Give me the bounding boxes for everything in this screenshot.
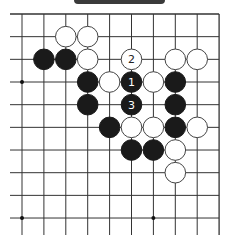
stone-disc: [187, 49, 208, 70]
black-stone: [77, 94, 98, 115]
white-stone: 2: [121, 49, 142, 70]
white-stone: [56, 26, 77, 47]
stone-disc: [77, 94, 98, 115]
black-stone: [143, 140, 164, 161]
move-number-label: 2: [128, 53, 135, 66]
white-stone: [187, 49, 208, 70]
black-stone: [165, 94, 186, 115]
white-stone: [77, 49, 98, 70]
stone-disc: [165, 94, 186, 115]
stone-disc: [143, 140, 164, 161]
star-point: [20, 216, 24, 220]
white-stone: [165, 140, 186, 161]
black-stone: [34, 49, 55, 70]
stone-disc: [121, 140, 142, 161]
stone-disc: [165, 140, 186, 161]
stone-disc: [143, 117, 164, 138]
stone-disc: [56, 49, 77, 70]
stone-disc: [77, 49, 98, 70]
stone-disc: [165, 49, 186, 70]
star-point: [20, 80, 24, 84]
stone-disc: [99, 117, 120, 138]
black-stone: [165, 72, 186, 93]
stone-disc: [187, 117, 208, 138]
black-stone: [165, 117, 186, 138]
white-stone: [165, 49, 186, 70]
stone-disc: [165, 72, 186, 93]
stone-disc: [121, 117, 142, 138]
black-stone: 3: [121, 94, 142, 115]
black-stone: [99, 117, 120, 138]
stone-disc: [143, 72, 164, 93]
stone-disc: [34, 49, 55, 70]
stone-disc: [99, 72, 120, 93]
white-stone: [77, 26, 98, 47]
black-stone: [56, 49, 77, 70]
white-stone: [99, 72, 120, 93]
white-stone: [187, 117, 208, 138]
white-stone: [143, 117, 164, 138]
white-stone: [121, 117, 142, 138]
black-stone: 1: [121, 72, 142, 93]
white-stone: [165, 162, 186, 183]
move-number-label: 1: [128, 76, 135, 89]
stone-disc: [165, 162, 186, 183]
star-point: [151, 216, 155, 220]
stone-disc: [165, 117, 186, 138]
go-board: 213: [0, 0, 225, 235]
move-number-label: 3: [128, 99, 135, 112]
black-stone: [121, 140, 142, 161]
stone-disc: [56, 26, 77, 47]
black-stone: [77, 72, 98, 93]
white-stone: [143, 72, 164, 93]
stone-disc: [77, 72, 98, 93]
stone-disc: [77, 26, 98, 47]
